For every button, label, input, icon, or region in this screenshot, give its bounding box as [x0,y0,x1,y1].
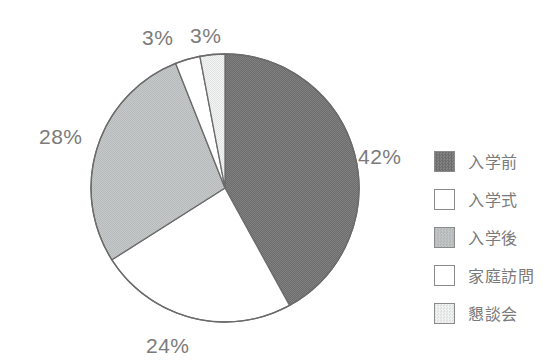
slice-value-label-nyugakushiki: 24% [146,335,190,356]
pie-slice-group [91,54,359,322]
legend-item-kondankai[interactable]: 懇談会 [434,294,556,332]
slice-value-label-nyugakumae: 42% [358,146,402,167]
legend-item-nyugakumae[interactable]: 入学前 [434,142,556,180]
chart-legend: 入学前 入学式 入学後 家庭訪問 懇談会 [434,142,556,332]
slice-value-label-nyugakugo: 28% [39,126,83,147]
legend-item-kateihoumon[interactable]: 家庭訪問 [434,256,556,294]
legend-swatch-icon [434,227,455,248]
slice-value-label-kateihoumon: 3% [142,27,173,48]
legend-item-label: 入学式 [468,187,518,211]
legend-item-nyugakugo[interactable]: 入学後 [434,218,556,256]
legend-item-label: 入学後 [468,225,518,249]
legend-swatch-icon [434,189,455,210]
pie-chart-figure: 42% 24% 28% 3% 3% 入学前 入学式 入学後 家庭訪問 懇談会 [0,0,560,363]
legend-item-label: 家庭訪問 [468,263,534,287]
pie-plot-area: 42% 24% 28% 3% 3% [0,0,420,363]
legend-item-label: 懇談会 [468,301,518,325]
slice-value-label-kondankai: 3% [190,25,221,46]
legend-item-nyugakushiki[interactable]: 入学式 [434,180,556,218]
legend-swatch-icon [434,265,455,286]
legend-item-label: 入学前 [468,149,518,173]
legend-swatch-icon [434,303,455,324]
pie-svg [0,0,420,363]
legend-swatch-icon [434,151,455,172]
